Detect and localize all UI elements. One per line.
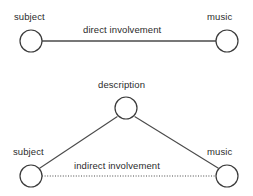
label-indirect-involvement: indirect involvement	[74, 160, 160, 171]
node-subject-bottom[interactable]	[20, 165, 42, 187]
indirect-involvement-graph	[20, 97, 238, 187]
label-music-top: music	[207, 11, 232, 22]
label-subject-top: subject	[14, 11, 45, 22]
node-subject-top[interactable]	[20, 30, 42, 52]
label-music-bottom: music	[207, 146, 232, 157]
node-description[interactable]	[115, 97, 137, 119]
node-music-bottom[interactable]	[216, 165, 238, 187]
diagram-canvas: subject music direct involvement descrip…	[0, 0, 253, 196]
label-subject-bottom: subject	[13, 146, 44, 157]
label-direct-involvement: direct involvement	[83, 24, 161, 35]
node-music-top[interactable]	[216, 30, 238, 52]
label-description: description	[98, 79, 145, 90]
